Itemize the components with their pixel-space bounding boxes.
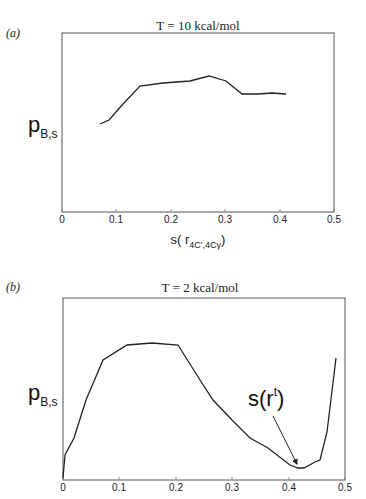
chart-graphics [0, 0, 366, 499]
panel-a-curve [100, 76, 286, 124]
annotation-arrow [273, 416, 297, 464]
panel-b-curve [63, 343, 336, 478]
panel-b-frame [63, 298, 345, 480]
